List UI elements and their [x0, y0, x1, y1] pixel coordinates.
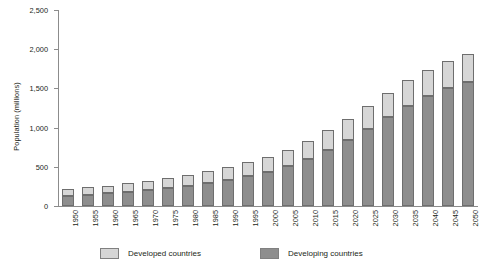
bar-column — [342, 119, 354, 206]
legend-label: Developed countries — [128, 249, 201, 258]
x-tick-label: 1970 — [151, 210, 160, 226]
bar-segment-developed — [322, 130, 334, 149]
x-tick-label: 1960 — [111, 210, 120, 226]
bar-segment-developing — [82, 195, 94, 206]
bar-column — [242, 162, 254, 206]
population-stacked-bar-chart: Population (millions) 05001,0001,5002,00… — [0, 0, 482, 272]
bar-segment-developed — [82, 187, 94, 194]
x-tick-label: 1990 — [231, 210, 240, 226]
bar-column — [362, 106, 374, 206]
bar-segment-developing — [322, 150, 334, 206]
bar-segment-developed — [422, 70, 434, 97]
bar-column — [202, 171, 214, 206]
bar-segment-developed — [102, 186, 114, 194]
x-axis-line — [58, 206, 478, 207]
bar-segment-developed — [442, 61, 454, 88]
bar-segment-developed — [342, 119, 354, 140]
x-tick-label: 2015 — [331, 210, 340, 226]
bar-column — [402, 80, 414, 206]
legend-item: Developing countries — [260, 248, 363, 259]
bar-segment-developing — [102, 193, 114, 206]
bar-segment-developed — [262, 157, 274, 172]
bar-segment-developing — [162, 188, 174, 206]
y-tick-label: 2,000 — [30, 45, 49, 54]
x-tick-label: 2010 — [311, 210, 320, 226]
bar-segment-developed — [182, 175, 194, 186]
bar-segment-developing — [282, 166, 294, 206]
x-tick-label: 1965 — [131, 210, 140, 226]
bar-segment-developed — [462, 54, 474, 82]
bar-column — [182, 175, 194, 206]
bar-segment-developed — [162, 178, 174, 188]
x-tick-label: 2045 — [451, 210, 460, 226]
bar-segment-developing — [122, 192, 134, 206]
bar-column — [162, 178, 174, 206]
bar-segment-developing — [202, 183, 214, 206]
bar-column — [222, 167, 234, 206]
bar-segment-developing — [302, 159, 314, 206]
bar-segment-developed — [282, 150, 294, 166]
bar-segment-developed — [382, 93, 394, 117]
bar-column — [282, 150, 294, 206]
y-tick-label: 2,500 — [30, 6, 49, 15]
legend-swatch-developing — [260, 248, 279, 259]
bar-column — [262, 157, 274, 206]
plot-area: 05001,0001,5002,0002,500 195019551960196… — [58, 10, 478, 206]
x-tick-label: 1980 — [191, 210, 200, 226]
x-tick-label: 1985 — [211, 210, 220, 226]
x-tick-label: 1975 — [171, 210, 180, 226]
bar-column — [62, 189, 74, 206]
x-tick-label: 1995 — [251, 210, 260, 226]
bar-segment-developing — [382, 117, 394, 206]
bar-segment-developing — [462, 82, 474, 206]
legend-swatch-developed — [100, 248, 119, 259]
bar-segment-developing — [222, 180, 234, 206]
bar-column — [302, 141, 314, 206]
x-tick-label: 2050 — [471, 210, 480, 226]
bar-segment-developed — [302, 141, 314, 159]
y-tick-label: 1,500 — [30, 84, 49, 93]
bar-column — [422, 70, 434, 206]
bar-column — [82, 187, 94, 206]
x-tick-label: 2005 — [291, 210, 300, 226]
chart-legend: Developed countriesDeveloping countries — [0, 246, 482, 266]
bar-column — [102, 186, 114, 206]
bar-segment-developed — [402, 80, 414, 105]
x-tick-label: 1950 — [71, 210, 80, 226]
bar-segment-developing — [342, 140, 354, 206]
bar-segment-developed — [122, 183, 134, 192]
bar-segment-developing — [402, 106, 414, 206]
bar-segment-developed — [62, 189, 74, 196]
bar-column — [462, 54, 474, 206]
bar-column — [382, 93, 394, 206]
bar-column — [442, 61, 454, 206]
bar-series-group — [58, 10, 478, 206]
bar-segment-developing — [142, 190, 154, 206]
y-tick: 0 — [54, 206, 58, 207]
legend-item: Developed countries — [100, 248, 201, 259]
bar-segment-developed — [202, 171, 214, 183]
x-tick-label: 2035 — [411, 210, 420, 226]
bar-segment-developing — [262, 172, 274, 206]
x-tick-label: 2030 — [391, 210, 400, 226]
bar-segment-developing — [182, 186, 194, 206]
bar-segment-developing — [362, 129, 374, 206]
legend-label: Developing countries — [288, 249, 363, 258]
bar-segment-developing — [422, 96, 434, 206]
bar-segment-developed — [142, 181, 154, 190]
bar-column — [122, 183, 134, 206]
bar-segment-developed — [242, 162, 254, 176]
x-tick-label: 2040 — [431, 210, 440, 226]
bar-column — [322, 130, 334, 206]
bar-segment-developing — [442, 88, 454, 206]
y-tick-label: 500 — [36, 162, 48, 171]
y-tick-label: 1,000 — [30, 123, 49, 132]
bar-column — [142, 181, 154, 206]
y-axis-title: Population (millions) — [12, 57, 21, 177]
bar-segment-developed — [362, 106, 374, 128]
y-tick-label: 0 — [44, 202, 48, 211]
bar-segment-developing — [242, 176, 254, 206]
bar-segment-developed — [222, 167, 234, 180]
bar-segment-developing — [62, 196, 74, 206]
x-tick-label: 2000 — [271, 210, 280, 226]
